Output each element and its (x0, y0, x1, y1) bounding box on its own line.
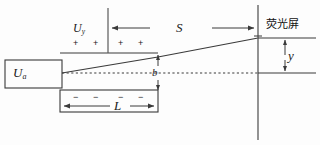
label-deflecting-voltage: Uy (73, 22, 85, 36)
label-accelerating-voltage: Ua (13, 66, 26, 81)
label-plate-gap: b (152, 67, 158, 78)
lower-plate-sign: − (73, 93, 78, 102)
upper-plate-sign: + (138, 39, 143, 48)
lower-plate-sign: − (138, 93, 143, 102)
lower-plate-sign: − (93, 93, 98, 102)
physics-diagram-figure: Ua Uy S L b y 荧光屏 + + + + − − − − (0, 0, 320, 145)
upper-plate-sign: + (118, 39, 123, 48)
deflect-voltage-subscript: y (82, 27, 85, 36)
electron-beam-path (62, 38, 258, 73)
deflect-voltage-symbol: U (73, 21, 82, 35)
screen-reference-lines (258, 38, 316, 73)
upper-plate-sign: + (93, 39, 98, 48)
lower-plate-sign: − (118, 93, 123, 102)
accel-voltage-subscript: a (22, 72, 26, 81)
label-screen-distance: S (176, 21, 183, 34)
label-deflection-y: y (288, 49, 294, 62)
label-fluorescent-screen: 荧光屏 (266, 19, 299, 30)
upper-plate-sign: + (73, 39, 78, 48)
accel-voltage-symbol: U (13, 65, 22, 80)
